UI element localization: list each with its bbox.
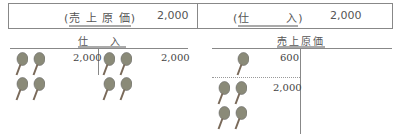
journal-debit-box: (売 上 原 価) 2,000 [8,3,198,29]
t-account-dotted-divider [212,77,300,78]
debit-amount: 2,000 [73,52,102,63]
t-account-title: 売上原価 [277,33,325,48]
racket-icon [217,81,230,105]
racket-icon [102,52,115,76]
credit-amount: 2,000 [330,9,362,22]
journal-credit-box: (仕 入) 2,000 [197,3,393,29]
racket-icon [15,77,28,101]
racket-icon [217,106,230,130]
debit-account: (売 上 原 価) [64,9,136,25]
racket-icon [236,52,249,76]
racket-icon [119,77,132,101]
racket-icon [234,106,247,130]
credit-amount: 2,000 [161,52,190,63]
racket-icon [32,52,45,76]
t-account-title: 仕 入 [78,33,126,48]
debit-amount: 2,000 [157,9,189,22]
racket-icon [32,77,45,101]
racket-icon [119,52,132,76]
t-account-hline [10,48,188,49]
credit-account: (仕 入) [233,9,304,25]
racket-icon [234,81,247,105]
debit-amount: 2,000 [273,82,302,93]
debit-amount: 600 [280,52,299,63]
t-account-hline [212,48,392,49]
racket-icon [15,52,28,76]
racket-icon [102,77,115,101]
